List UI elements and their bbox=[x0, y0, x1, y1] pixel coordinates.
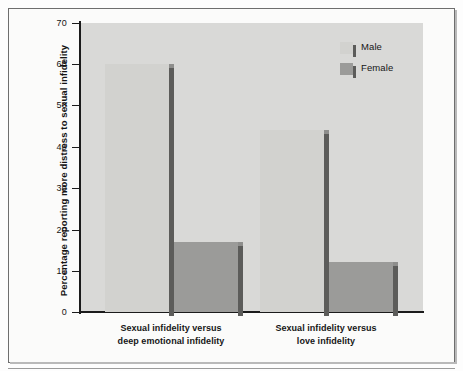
x-label-group2-line2: love infidelity bbox=[251, 335, 401, 348]
figure: 70 60 50 40 30 20 10 0 Percentage report… bbox=[0, 0, 463, 371]
y-tick-60 bbox=[72, 64, 79, 65]
bar-edge-shadow bbox=[238, 246, 243, 316]
legend-swatch-edge bbox=[353, 66, 356, 78]
figure-frame-shadow bbox=[10, 362, 457, 364]
legend-swatch-body bbox=[340, 42, 353, 54]
legend-label-male: Male bbox=[361, 41, 382, 52]
legend-label-female: Female bbox=[361, 62, 393, 73]
y-axis-title: Percentage reporting more distress to se… bbox=[58, 26, 69, 316]
y-axis-line bbox=[79, 21, 81, 314]
bar-male-group1 bbox=[105, 64, 169, 312]
x-label-group1-line2: deep emotional infidelity bbox=[96, 335, 246, 348]
bar-female-group1 bbox=[174, 242, 238, 312]
legend-swatch-female bbox=[340, 63, 353, 75]
bar-female-group2 bbox=[329, 262, 393, 312]
x-label-group1-line1: Sexual infidelity versus bbox=[96, 322, 246, 335]
y-tick-30 bbox=[72, 188, 79, 189]
x-label-group2-line1: Sexual infidelity versus bbox=[251, 322, 401, 335]
y-tick-10 bbox=[72, 271, 79, 272]
bar-body bbox=[105, 64, 169, 312]
legend-swatch-body bbox=[340, 63, 353, 75]
figure-frame-shadow-right bbox=[455, 10, 457, 364]
bar-body bbox=[174, 242, 238, 312]
x-label-group1: Sexual infidelity versus deep emotional … bbox=[96, 322, 246, 347]
bar-edge-shadow bbox=[393, 266, 398, 316]
x-label-group2: Sexual infidelity versus love infidelity bbox=[251, 322, 401, 347]
bar-body bbox=[329, 262, 393, 312]
y-tick-0 bbox=[72, 312, 79, 313]
legend-swatch-edge bbox=[353, 45, 356, 57]
y-tick-20 bbox=[72, 230, 79, 231]
y-tick-50 bbox=[72, 105, 79, 106]
bar-male-group2 bbox=[260, 130, 324, 312]
legend-swatch-male bbox=[340, 42, 353, 54]
y-tick-40 bbox=[72, 147, 79, 148]
bottom-rule bbox=[8, 368, 455, 369]
bar-body bbox=[260, 130, 324, 312]
y-tick-70 bbox=[72, 23, 79, 24]
